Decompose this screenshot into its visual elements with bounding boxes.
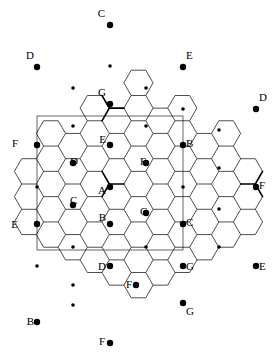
vertex-label-E-right: E xyxy=(259,260,266,272)
node-F-lower-center xyxy=(133,282,139,288)
vertex-label-D-lower-center: D xyxy=(98,260,106,272)
node-small-6 xyxy=(217,128,221,132)
figure-background xyxy=(0,0,277,358)
node-G-upper-center xyxy=(107,101,113,107)
node-small-5 xyxy=(144,124,148,128)
vertex-label-A-center: A xyxy=(98,184,106,196)
node-A-center xyxy=(107,184,113,190)
node-small-1 xyxy=(71,86,75,90)
vertex-label-F-center: F xyxy=(140,155,146,167)
node-small-2 xyxy=(144,86,148,90)
vertex-label-E-upper-right: E xyxy=(186,49,193,61)
node-F-left xyxy=(34,142,40,148)
vertex-label-B-center-right: B xyxy=(186,137,193,149)
vertex-label-E-center: E xyxy=(99,133,106,145)
vertex-label-G-bottom-right: G xyxy=(186,305,194,317)
node-F-bottom xyxy=(107,340,113,346)
node-small-13 xyxy=(35,264,39,268)
vertex-label-C-center-left: C xyxy=(70,194,77,206)
vertex-label-G-upper-center: G xyxy=(98,86,106,98)
node-E-left xyxy=(34,221,40,227)
vertex-label-F-left: F xyxy=(12,137,18,149)
vertex-label-B-center: B xyxy=(99,211,106,223)
vertex-label-G-lower-right: G xyxy=(186,260,194,272)
vertex-label-C-center-right: C xyxy=(186,216,193,228)
vertex-label-F-right: F xyxy=(259,179,265,191)
node-C-top xyxy=(107,22,113,28)
vertex-label-C-top: C xyxy=(98,7,105,19)
node-small-3 xyxy=(181,107,185,111)
node-small-16 xyxy=(108,64,112,68)
hex-lattice-figure: CDEGDFBEDFFACGEBCDGEFGBF xyxy=(0,0,277,358)
node-B-bottom-left xyxy=(34,319,40,325)
node-small-11 xyxy=(144,245,148,249)
vertex-label-E-left: E xyxy=(11,218,18,230)
vertex-label-D-right: D xyxy=(259,91,267,103)
node-small-10 xyxy=(71,245,75,249)
hex-lattice-canvas: CDEGDFBEDFFACGEBCDGEFGBF xyxy=(0,0,277,358)
node-E-upper-right xyxy=(180,64,186,70)
node-small-17 xyxy=(71,303,75,307)
vertex-label-D-center-left: D xyxy=(70,155,78,167)
vertex-label-F-lower-center: F xyxy=(126,278,132,290)
node-small-14 xyxy=(71,283,75,287)
vertex-label-F-bottom: F xyxy=(99,335,105,347)
vertex-label-G-center: G xyxy=(140,205,148,217)
node-small-9 xyxy=(217,166,221,170)
node-D-lower-center xyxy=(107,263,113,269)
node-D-right xyxy=(253,106,259,112)
node-B-center xyxy=(107,221,113,227)
node-E-center xyxy=(107,142,113,148)
node-small-8 xyxy=(181,185,185,189)
node-small-4 xyxy=(71,124,75,128)
vertex-label-B-bottom-left: B xyxy=(27,315,34,327)
node-small-12 xyxy=(217,245,221,249)
vertex-label-D-upper-left: D xyxy=(26,49,34,61)
node-small-7 xyxy=(35,185,39,189)
node-D-upper-left xyxy=(34,64,40,70)
node-small-15 xyxy=(217,207,221,211)
